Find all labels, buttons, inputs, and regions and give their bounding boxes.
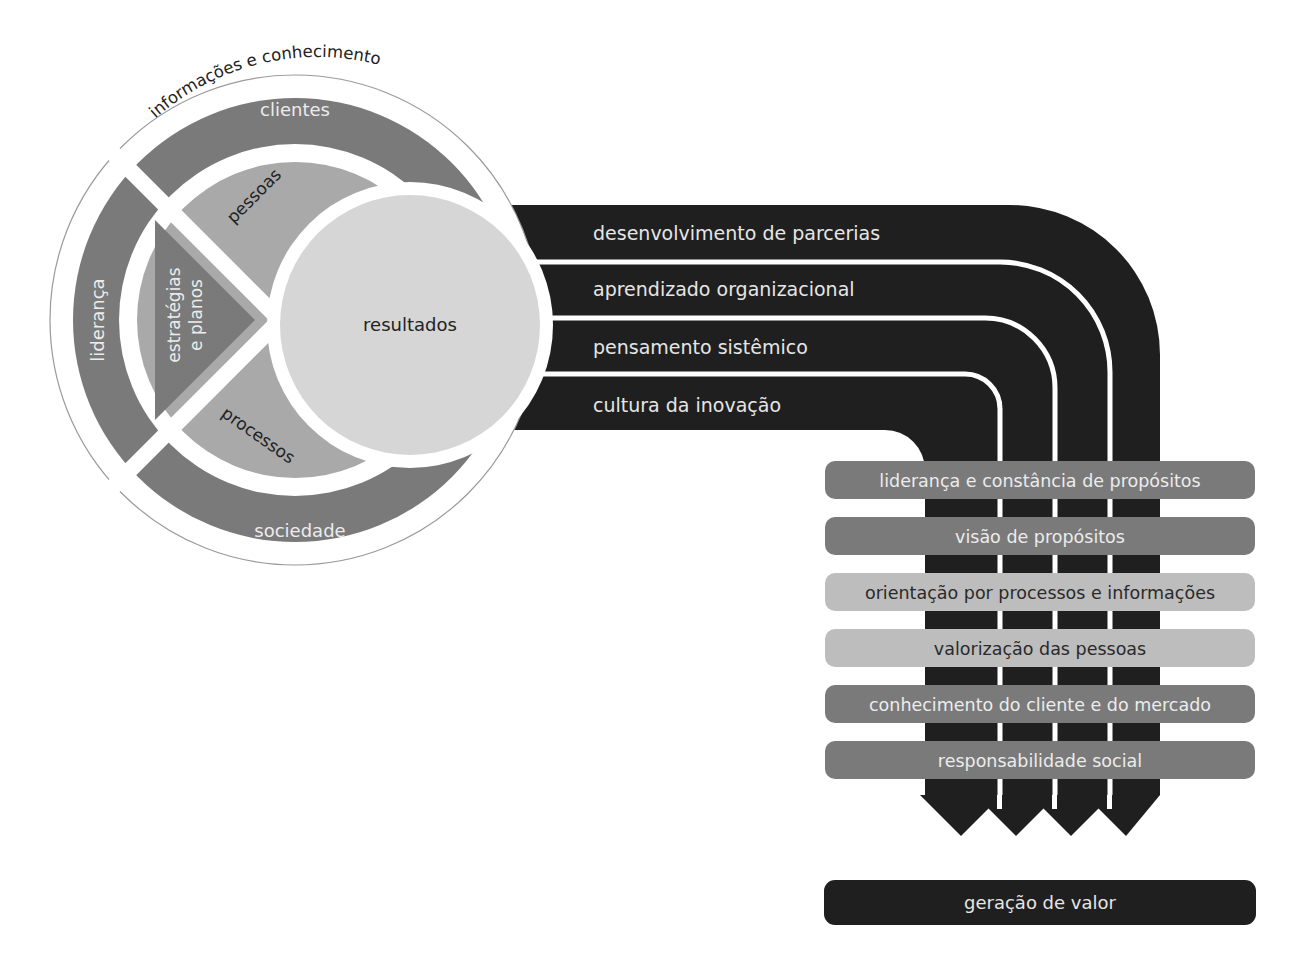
principle-label-3: orientação por processos e informações: [865, 583, 1215, 603]
principle-label-6: responsabilidade social: [938, 751, 1142, 771]
outcome-bar: geração de valor: [824, 880, 1256, 925]
principle-bar-5: conhecimento do cliente e do mercado: [825, 685, 1255, 723]
segment-estrategias-line2: e planos: [186, 279, 206, 351]
principle-label-5: conhecimento do cliente e do mercado: [869, 695, 1211, 715]
principle-bar-2: visão de propósitos: [825, 517, 1255, 555]
segment-clientes: clientes: [260, 99, 330, 120]
segment-sociedade: sociedade: [254, 520, 345, 541]
outcome-label: geração de valor: [964, 892, 1117, 913]
principle-bar-1: liderança e constância de propósitos: [825, 461, 1255, 499]
segment-lideranca: liderança: [87, 278, 108, 361]
circle-model: informações e conhecimento clientes soci…: [50, 42, 553, 565]
principle-label-4: valorização das pessoas: [934, 639, 1146, 659]
principle-bar-3: orientação por processos e informações: [825, 573, 1255, 611]
segment-estrategias-line1: estratégias: [164, 267, 184, 362]
principle-label-1: liderança e constância de propósitos: [879, 471, 1200, 491]
principle-bar-4: valorização das pessoas: [825, 629, 1255, 667]
band-label-3: pensamento sistêmico: [593, 336, 808, 358]
principle-label-2: visão de propósitos: [955, 527, 1125, 547]
arrowhead-4-icon: [1085, 795, 1160, 836]
band-label-4: cultura da inovação: [593, 394, 781, 416]
band-label-2: aprendizado organizacional: [593, 278, 855, 300]
principle-bar-6: responsabilidade social: [825, 741, 1255, 779]
arrowheads: [920, 795, 1160, 836]
band-label-1: desenvolvimento de parcerias: [593, 222, 880, 244]
management-model-diagram: desenvolvimento de parcerias aprendizado…: [0, 0, 1312, 976]
center-resultados: resultados: [363, 314, 457, 335]
